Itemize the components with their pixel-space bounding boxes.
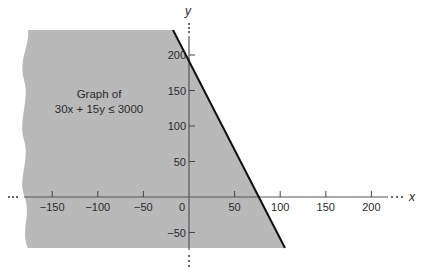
annotation-line-2: 30x + 15y ≤ 3000	[55, 103, 143, 115]
x-tick-label: −50	[134, 201, 153, 213]
x-axis-right-ellipsis	[391, 196, 403, 198]
x-tick-label: −100	[85, 201, 110, 213]
y-tick-label: 100	[168, 120, 186, 132]
x-tick-label: 0	[179, 201, 185, 213]
x-axis-left-ellipsis	[8, 196, 18, 198]
y-tick-label: −50	[167, 227, 186, 239]
shaded-region	[22, 30, 285, 248]
inequality-graph: x y −150−100−50050100150200 −50501001502…	[0, 0, 426, 280]
x-tick-label: 50	[228, 201, 240, 213]
y-tick-label: 150	[168, 85, 186, 97]
y-axis-bottom-ellipsis	[188, 255, 190, 267]
x-tick-label: 150	[317, 201, 335, 213]
y-axis-top-ellipsis	[188, 23, 190, 33]
y-axis-label: y	[184, 4, 192, 18]
x-tick-label: 200	[362, 201, 380, 213]
annotation-line-1: Graph of	[77, 88, 123, 100]
x-axis-label: x	[408, 190, 416, 204]
x-tick-label: −150	[40, 201, 65, 213]
x-tick-label: 100	[271, 201, 289, 213]
y-tick-label: 50	[174, 156, 186, 168]
